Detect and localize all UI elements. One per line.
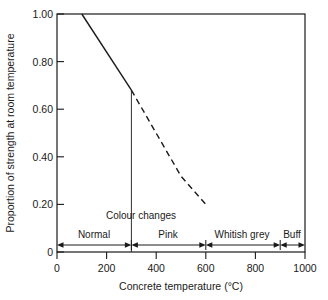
y-tick-label-1-00: 1.00 <box>33 8 54 20</box>
x-tick-label-0: 0 <box>54 262 60 274</box>
y-tick-label-0-40: 0.40 <box>33 151 54 163</box>
y-tick-label-0: 0 <box>47 246 53 258</box>
band-label-pink: Pink <box>158 229 178 240</box>
band-label-whitish-grey: Whitish grey <box>214 229 269 240</box>
band-labels: Normal Pink Whitish grey Buff <box>78 229 301 240</box>
y-axis-ticks <box>57 14 64 252</box>
band-arrow-buff-right <box>299 242 306 248</box>
band-arrow-whitish-grey-right <box>274 242 281 248</box>
series-measured-line <box>82 14 132 90</box>
band-label-buff: Buff <box>283 229 301 240</box>
band-range-bars <box>57 240 305 250</box>
band-arrow-normal-right <box>125 242 131 248</box>
band-label-normal: Normal <box>78 229 110 240</box>
x-tick-label-400: 400 <box>147 262 165 274</box>
band-arrow-pink-left <box>131 242 138 248</box>
band-arrow-buff-left <box>280 242 287 248</box>
band-arrow-normal-left <box>57 242 64 248</box>
y-tick-label-0-20: 0.20 <box>33 198 54 210</box>
y-tick-label-0-60: 0.60 <box>33 103 54 115</box>
x-tick-label-600: 600 <box>197 262 215 274</box>
x-tick-label-200: 200 <box>98 262 116 274</box>
y-axis-tick-labels: 1.00 0.80 0.60 0.40 0.20 0 <box>33 8 54 258</box>
x-axis-tick-labels: 0 200 400 600 800 1000 <box>54 262 317 274</box>
plot-frame <box>57 14 305 252</box>
strength-vs-temperature-chart: 1.00 0.80 0.60 0.40 0.20 0 Proportion of… <box>0 0 328 300</box>
x-tick-label-800: 800 <box>247 262 265 274</box>
figure-container: 1.00 0.80 0.60 0.40 0.20 0 Proportion of… <box>0 0 328 300</box>
x-axis-ticks <box>57 252 305 259</box>
series-extrapolated-line <box>131 90 205 204</box>
y-tick-label-0-80: 0.80 <box>33 56 54 68</box>
x-tick-label-1000: 1000 <box>293 262 317 274</box>
y-axis-title: Proportion of strength at room temperatu… <box>4 33 16 232</box>
band-arrow-pink-right <box>199 242 206 248</box>
colour-changes-caption: Colour changes <box>106 210 176 221</box>
band-arrow-whitish-grey-left <box>206 242 213 248</box>
x-axis-title: Concrete temperature (°C) <box>119 280 243 292</box>
